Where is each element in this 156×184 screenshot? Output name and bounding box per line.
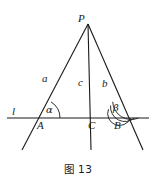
line-label-l: l [12,106,15,117]
point-label-C: C [88,120,95,131]
point-label-P: P [78,13,85,24]
segment-PC-extended [88,24,91,150]
segment-label-a: a [42,73,48,84]
figure-caption: 图 13 [0,161,156,176]
geometry-drawing [0,0,156,184]
segment-label-b: b [102,78,108,89]
geometry-figure: P A B C a c b α β l 图 13 [0,0,156,184]
angle-label-beta: β [113,103,119,113]
point-label-A: A [37,120,44,131]
segment-PB-extended [88,24,143,150]
point-label-B: B [114,120,121,131]
angle-label-alpha: α [46,105,53,115]
segment-label-c: c [78,77,83,88]
